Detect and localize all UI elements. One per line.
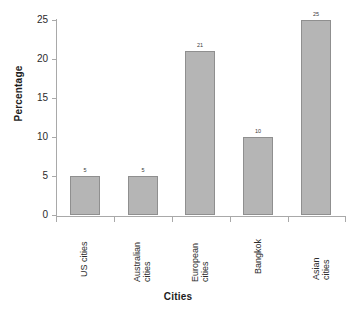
y-tick-mark-0 [52, 215, 57, 216]
x-category-label-bangkok: Bangkok [253, 239, 263, 274]
bar-value-us-cities: 5 [70, 168, 100, 174]
y-tick-mark-10 [52, 137, 57, 138]
y-tick-mark-25 [52, 20, 57, 21]
y-tick-label-25: 25 [18, 15, 48, 25]
bar-value-european-cities: 21 [185, 43, 215, 49]
y-tick-label-10: 10 [18, 132, 48, 142]
bar-european-cities [185, 51, 215, 215]
y-tick-label-15: 15 [18, 93, 48, 103]
x-tick-mark-0 [56, 217, 57, 222]
x-category-label-australian-cities: Australian cities [132, 242, 152, 282]
x-tick-mark-2 [172, 217, 173, 222]
y-tick-mark-5 [52, 176, 57, 177]
x-axis-title: Cities [0, 291, 356, 302]
y-tick-label-0: 0 [18, 210, 48, 220]
bar-value-bangkok: 10 [243, 129, 273, 135]
y-tick-label-5: 5 [18, 171, 48, 181]
y-tick-mark-20 [52, 59, 57, 60]
bar-asian-cities [301, 20, 331, 215]
bar-value-asian-cities: 25 [301, 12, 331, 18]
x-tick-mark-4 [288, 217, 289, 222]
y-tick-label-20: 20 [18, 54, 48, 64]
x-tick-mark-5 [345, 217, 346, 222]
x-category-label-us-cities: US cities [79, 241, 89, 277]
y-tick-mark-15 [52, 98, 57, 99]
x-tick-mark-3 [230, 217, 231, 222]
x-category-label-asian-cities: Asian cities [311, 235, 331, 280]
x-axis-line [56, 216, 346, 217]
bar-australian-cities [128, 176, 158, 215]
x-tick-mark-1 [114, 217, 115, 222]
bar-bangkok [243, 137, 273, 215]
bar-chart: Percentage 25 20 15 10 5 0 5 5 21 10 25 … [0, 0, 356, 312]
y-axis-line [56, 19, 57, 217]
bar-value-australian-cities: 5 [128, 168, 158, 174]
x-category-label-european-cities: European cities [190, 243, 210, 282]
bar-us-cities [70, 176, 100, 215]
